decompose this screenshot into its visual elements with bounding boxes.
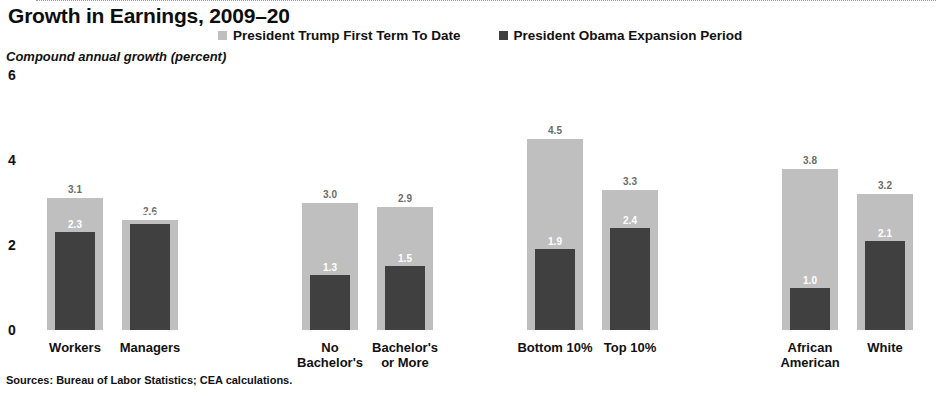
bar-value-trump: 3.1 — [68, 184, 82, 195]
x-axis-category-line: Bachelor's — [372, 340, 438, 355]
bar-value-obama: 1.3 — [323, 262, 337, 273]
x-axis-category-label: White — [867, 340, 902, 355]
x-axis-category-label: NoBachelor's — [297, 340, 363, 370]
x-axis-category-line: African — [780, 340, 839, 355]
bar-obama — [535, 249, 575, 330]
bar-value-obama: 2.5 — [143, 211, 157, 222]
x-axis-category-label: Bottom 10% — [517, 340, 592, 355]
x-axis-category-line: Managers — [120, 340, 181, 355]
bar-obama — [610, 228, 650, 330]
x-axis-category-line: or More — [372, 355, 438, 370]
x-axis-category-line: Bachelor's — [297, 355, 363, 370]
source-note: Sources: Bureau of Labor Statistics; CEA… — [6, 374, 292, 386]
bar-value-obama: 1.0 — [803, 275, 817, 286]
x-axis-category-label: Workers — [49, 340, 101, 355]
bar-obama — [55, 232, 95, 330]
bar-obama — [790, 288, 830, 331]
x-axis-category-line: Bottom 10% — [517, 340, 592, 355]
x-axis-category-label: Bachelor'sor More — [372, 340, 438, 370]
x-axis-category-label: AfricanAmerican — [780, 340, 839, 370]
x-axis-category-label: Managers — [120, 340, 181, 355]
chart-container: Growth in Earnings, 2009–20 President Tr… — [0, 0, 944, 396]
plot-area: 02463.12.3Workers2.62.5Managers3.01.3NoB… — [0, 0, 944, 396]
y-axis-tick: 6 — [8, 67, 16, 83]
bar-obama — [385, 266, 425, 330]
bar-value-trump: 3.0 — [323, 189, 337, 200]
x-axis-category-line: Top 10% — [604, 340, 657, 355]
bar-value-trump: 2.9 — [398, 193, 412, 204]
bar-obama — [130, 224, 170, 330]
bar-value-obama: 1.9 — [548, 236, 562, 247]
x-axis-category-line: No — [297, 340, 363, 355]
y-axis-tick: 0 — [8, 322, 16, 338]
bar-value-obama: 2.3 — [68, 219, 82, 230]
bar-value-trump: 3.2 — [878, 180, 892, 191]
x-axis-category-line: White — [867, 340, 902, 355]
bar-obama — [310, 275, 350, 330]
y-axis-tick: 4 — [8, 152, 16, 168]
x-axis-category-line: Workers — [49, 340, 101, 355]
axis-baseline — [36, 0, 936, 2]
bar-obama — [865, 241, 905, 330]
bar-value-trump: 3.3 — [623, 176, 637, 187]
x-axis-category-label: Top 10% — [604, 340, 657, 355]
bar-value-obama: 1.5 — [398, 253, 412, 264]
bar-value-obama: 2.4 — [623, 215, 637, 226]
bar-value-obama: 2.1 — [878, 228, 892, 239]
y-axis-tick: 2 — [8, 237, 16, 253]
bar-value-trump: 4.5 — [548, 125, 562, 136]
bar-value-trump: 3.8 — [803, 155, 817, 166]
x-axis-category-line: American — [780, 355, 839, 370]
